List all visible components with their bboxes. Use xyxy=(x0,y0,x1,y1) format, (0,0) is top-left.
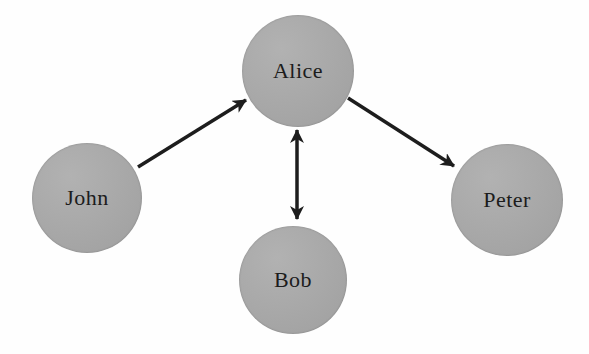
node-bob-label: Bob xyxy=(274,267,312,293)
node-john-label: John xyxy=(65,185,109,211)
edge-john-alice xyxy=(138,100,246,167)
node-alice: Alice xyxy=(242,15,354,127)
node-peter: Peter xyxy=(451,144,563,256)
edge-alice-peter xyxy=(348,98,454,166)
node-bob: Bob xyxy=(239,226,347,334)
node-john: John xyxy=(32,143,142,253)
node-peter-label: Peter xyxy=(483,187,531,213)
diagram-canvas: John Alice Bob Peter xyxy=(0,0,589,354)
node-alice-label: Alice xyxy=(273,58,323,84)
